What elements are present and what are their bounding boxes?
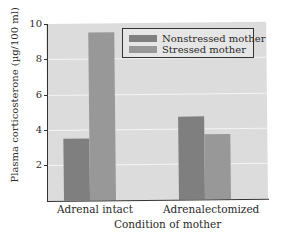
y-axis (47, 24, 48, 201)
x-tick-label-adrenal-intact: Adrenal intact (57, 203, 133, 215)
legend-item-nonstressed: Nonstressed mother (129, 33, 265, 43)
y-tick-label: 8 (24, 54, 42, 64)
y-tick-8 (44, 59, 48, 60)
y-tick-label: 6 (24, 90, 42, 100)
y-tick-6 (44, 95, 48, 96)
y-tick-label: 10 (24, 19, 42, 29)
legend-item-stressed: Stressed mother (129, 44, 246, 54)
bar-adrenalectomized-stressed (204, 134, 231, 199)
legend-label: Stressed mother (162, 44, 246, 55)
legend-swatch-stressed (129, 46, 157, 53)
y-tick-10 (44, 24, 48, 25)
legend-swatch-nonstressed (129, 35, 157, 42)
y-tick-2 (44, 165, 48, 166)
gridline-6 (47, 93, 267, 96)
bar-adrenal-intact-stressed (88, 32, 116, 200)
bar-adrenal-intact-nonstressed (63, 139, 90, 201)
bar-adrenalectomized-nonstressed (178, 116, 205, 199)
gridline-4 (47, 128, 267, 131)
x-tick-label-adrenalectomized: Adrenalectomized (163, 203, 259, 215)
y-tick-label: 4 (24, 125, 42, 135)
legend: Nonstressed mother Stressed mother (122, 28, 254, 58)
y-tick-label: 2 (24, 160, 42, 170)
legend-label: Nonstressed mother (162, 33, 265, 44)
x-axis-label: Condition of mother (114, 218, 221, 230)
y-tick-4 (44, 130, 48, 131)
y-axis-label: Plasma corticosterone (µg/100 ml) (9, 43, 20, 183)
